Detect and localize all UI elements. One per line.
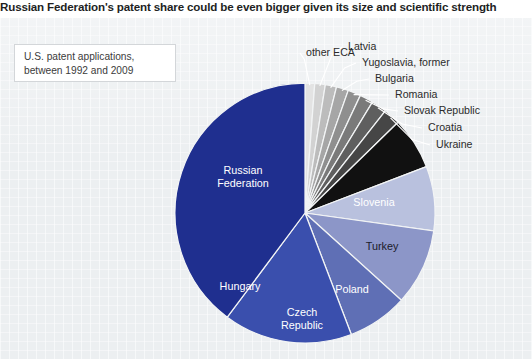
slice-label-inside: Czech: [287, 306, 318, 318]
slice-label-outside: Slovak Republic: [404, 104, 481, 116]
slice-label-outside: Romania: [395, 88, 438, 100]
slice-label-inside: Turkey: [366, 240, 399, 252]
page-title: Russian Federation's patent share could …: [0, 0, 532, 18]
slice-label-inside: Slovenia: [353, 196, 394, 208]
leader-line: [342, 79, 369, 90]
chart-page: Russian Federation's patent share could …: [0, 0, 532, 359]
slice-label-inside: Federation: [217, 177, 269, 189]
slice-label-outside: Ukraine: [436, 138, 473, 150]
slice-label-outside: Croatia: [428, 121, 462, 133]
slice-label-inside: Hungary: [220, 280, 261, 292]
slice-label-outside: Yugoslavia, former: [362, 56, 450, 68]
slice-label-inside: Russian: [223, 164, 262, 176]
caption-line-1: U.S. patent applications,: [24, 50, 166, 64]
slice-label-outside: Bulgaria: [375, 72, 414, 84]
slice-label-outside: Latvia: [348, 40, 376, 52]
slice-label-inside: Poland: [335, 283, 369, 295]
caption-line-2: between 1992 and 2009: [24, 64, 166, 78]
caption-box: U.S. patent applications, between 1992 a…: [14, 44, 176, 82]
slice-label-inside: Republic: [281, 319, 324, 331]
pie-wedges: [175, 83, 435, 343]
chart-panel: U.S. patent applications, between 1992 a…: [0, 18, 532, 359]
